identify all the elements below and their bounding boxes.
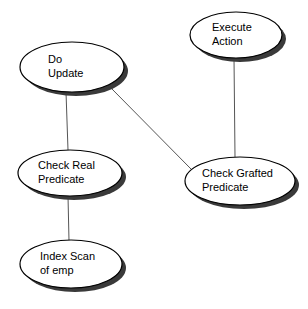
node-label-line2: of emp [40,264,74,276]
node-label-line2: Action [212,35,243,47]
node-label-line1: Check Grafted [202,167,273,179]
node-label-line2: Predicate [38,173,84,185]
node-check-real-predicate[interactable]: Check Real Predicate [18,150,126,200]
diagram-svg: Execute Action Do Update Check Real Pred… [0,0,308,309]
diagram-canvas: Execute Action Do Update Check Real Pred… [0,0,308,309]
node-label-line1: Check Real [38,159,95,171]
node-do-update[interactable]: Do Update [20,42,128,96]
edge-check-real-predicate-to-index-scan [68,196,69,241]
node-execute-action[interactable]: Execute Action [190,12,286,62]
edge-do-update-to-check-real-predicate [66,92,68,150]
node-check-grafted-predicate[interactable]: Check Grafted Predicate [185,157,299,209]
node-label-line2: Predicate [202,181,248,193]
node-label-line2: Update [48,67,83,79]
node-label-line1: Index Scan [40,250,95,262]
edge-execute-action-to-check-grafted-predicate [234,58,235,157]
node-label-line1: Do [48,53,62,65]
node-label-line1: Execute [212,21,252,33]
node-index-scan-of-emp[interactable]: Index Scan of emp [20,240,126,292]
edge-do-update-to-check-grafted-predicate [112,89,191,169]
